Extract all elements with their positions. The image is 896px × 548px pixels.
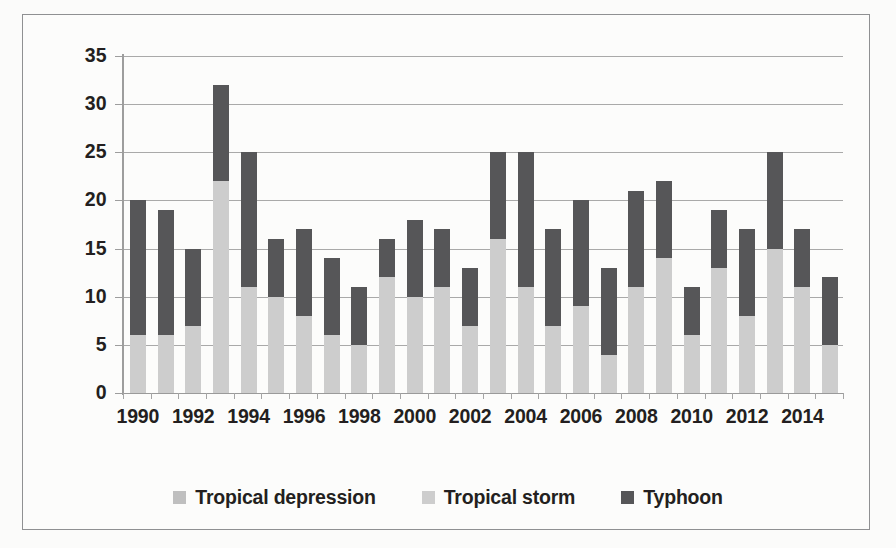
bar-column-2005[interactable] — [545, 56, 561, 393]
bar-segment-2003-typhoon[interactable] — [490, 152, 506, 239]
bar-segment-1994-typhoon[interactable] — [241, 152, 257, 287]
bar-segment-2008-typhoon[interactable] — [628, 191, 644, 287]
bar-column-2006[interactable] — [573, 56, 589, 393]
bar-column-2008[interactable] — [628, 56, 644, 393]
bar-segment-2001-tropical-storm[interactable] — [434, 287, 450, 393]
bar-column-2009[interactable] — [656, 56, 672, 393]
bar-segment-2010-typhoon[interactable] — [684, 287, 700, 335]
bar-segment-2006-typhoon[interactable] — [573, 200, 589, 306]
bar-column-2003[interactable] — [490, 56, 506, 393]
bar-segment-1993-typhoon[interactable] — [213, 85, 229, 181]
x-tick-11 — [428, 393, 429, 399]
bar-column-1991[interactable] — [158, 56, 174, 393]
bar-segment-1999-tropical-storm[interactable] — [379, 277, 395, 393]
x-axis-label-2010: 2010 — [662, 405, 722, 428]
bar-column-2014[interactable] — [794, 56, 810, 393]
bar-segment-2015-tropical-storm[interactable] — [822, 345, 838, 393]
bar-column-2007[interactable] — [601, 56, 617, 393]
legend-item-typhoon[interactable]: Typhoon — [621, 486, 722, 509]
bar-segment-1995-tropical-storm[interactable] — [268, 297, 284, 393]
bar-segment-1997-typhoon[interactable] — [324, 258, 340, 335]
bar-segment-2010-tropical-storm[interactable] — [684, 335, 700, 393]
bar-column-1999[interactable] — [379, 56, 395, 393]
bar-segment-2011-tropical-storm[interactable] — [711, 268, 727, 393]
bar-column-1997[interactable] — [324, 56, 340, 393]
bar-segment-1990-tropical-storm[interactable] — [130, 335, 146, 393]
bar-segment-2011-typhoon[interactable] — [711, 210, 727, 268]
x-tick-18 — [621, 393, 622, 399]
legend-swatch-icon — [422, 491, 435, 504]
bar-segment-1999-typhoon[interactable] — [379, 239, 395, 278]
bar-segment-1995-typhoon[interactable] — [268, 239, 284, 297]
bar-column-1998[interactable] — [351, 56, 367, 393]
bar-column-2010[interactable] — [684, 56, 700, 393]
bar-column-1995[interactable] — [268, 56, 284, 393]
bar-segment-2000-tropical-storm[interactable] — [407, 297, 423, 393]
bar-column-2001[interactable] — [434, 56, 450, 393]
x-tick-0 — [123, 393, 124, 399]
bar-segment-2015-typhoon[interactable] — [822, 277, 838, 344]
bar-column-2002[interactable] — [462, 56, 478, 393]
bar-segment-1993-tropical-storm[interactable] — [213, 181, 229, 393]
bar-segment-2002-tropical-storm[interactable] — [462, 326, 478, 393]
bar-column-2012[interactable] — [739, 56, 755, 393]
bar-segment-1994-tropical-storm[interactable] — [241, 287, 257, 393]
bar-segment-2005-typhoon[interactable] — [545, 229, 561, 325]
y-axis-label-20: 20 — [63, 188, 107, 211]
bar-segment-1991-tropical-storm[interactable] — [158, 335, 174, 393]
bar-segment-2007-tropical-storm[interactable] — [601, 355, 617, 394]
bar-segment-2001-typhoon[interactable] — [434, 229, 450, 287]
bar-segment-2004-tropical-storm[interactable] — [518, 287, 534, 393]
bar-column-2013[interactable] — [767, 56, 783, 393]
x-tick-5 — [261, 393, 262, 399]
bar-column-2004[interactable] — [518, 56, 534, 393]
bar-segment-1998-tropical-storm[interactable] — [351, 345, 367, 393]
bar-segment-1996-tropical-storm[interactable] — [296, 316, 312, 393]
bar-column-2000[interactable] — [407, 56, 423, 393]
bar-column-2011[interactable] — [711, 56, 727, 393]
bar-column-1996[interactable] — [296, 56, 312, 393]
x-tick-24 — [788, 393, 789, 399]
bar-segment-2014-typhoon[interactable] — [794, 229, 810, 287]
x-tick-26 — [843, 393, 844, 399]
x-tick-6 — [289, 393, 290, 399]
bar-segment-1991-typhoon[interactable] — [158, 210, 174, 335]
legend-item-tropical-depression[interactable]: Tropical depression — [173, 486, 375, 509]
bar-segment-2003-tropical-storm[interactable] — [490, 239, 506, 393]
bar-segment-2012-typhoon[interactable] — [739, 229, 755, 316]
bar-segment-2008-tropical-storm[interactable] — [628, 287, 644, 393]
bar-column-1992[interactable] — [185, 56, 201, 393]
legend-label: Tropical depression — [195, 486, 375, 509]
y-axis-labels: 35302520151050 — [57, 15, 107, 435]
bar-segment-1996-typhoon[interactable] — [296, 229, 312, 316]
x-tick-21 — [705, 393, 706, 399]
x-tick-19 — [649, 393, 650, 399]
legend-item-tropical-storm[interactable]: Tropical storm — [422, 486, 576, 509]
bar-column-1994[interactable] — [241, 56, 257, 393]
bar-segment-2014-tropical-storm[interactable] — [794, 287, 810, 393]
bar-column-1993[interactable] — [213, 56, 229, 393]
bar-segment-2009-typhoon[interactable] — [656, 181, 672, 258]
bar-segment-2004-typhoon[interactable] — [518, 152, 534, 287]
bar-segment-1990-typhoon[interactable] — [130, 200, 146, 335]
x-axis-label-2002: 2002 — [440, 405, 500, 428]
bar-segment-2000-typhoon[interactable] — [407, 220, 423, 297]
bar-segment-2007-typhoon[interactable] — [601, 268, 617, 355]
bar-segment-2009-tropical-storm[interactable] — [656, 258, 672, 393]
x-tick-8 — [345, 393, 346, 399]
bar-segment-1998-typhoon[interactable] — [351, 287, 367, 345]
x-tick-25 — [815, 393, 816, 399]
x-tick-7 — [317, 393, 318, 399]
bar-segment-2013-tropical-storm[interactable] — [767, 249, 783, 393]
bar-segment-1992-tropical-storm[interactable] — [185, 326, 201, 393]
bar-column-1990[interactable] — [130, 56, 146, 393]
bar-column-2015[interactable] — [822, 56, 838, 393]
bar-segment-2013-typhoon[interactable] — [767, 152, 783, 248]
bar-segment-1992-typhoon[interactable] — [185, 249, 201, 326]
bar-segment-2012-tropical-storm[interactable] — [739, 316, 755, 393]
bar-segment-2005-tropical-storm[interactable] — [545, 326, 561, 393]
bar-segment-2006-tropical-storm[interactable] — [573, 306, 589, 393]
legend-label: Tropical storm — [444, 486, 576, 509]
bar-segment-2002-typhoon[interactable] — [462, 268, 478, 326]
bar-segment-1997-tropical-storm[interactable] — [324, 335, 340, 393]
